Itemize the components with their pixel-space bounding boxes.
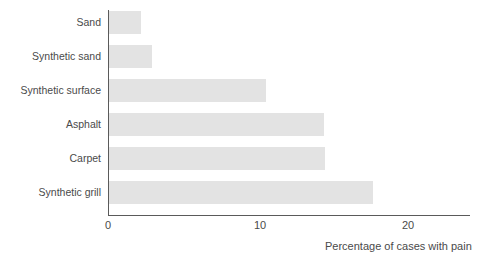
category-label-asphalt: Asphalt <box>1 118 101 130</box>
bar-synthetic-surface <box>108 79 266 102</box>
x-axis-title: Percentage of cases with pain <box>325 240 472 252</box>
bar-row <box>108 79 266 102</box>
bar-row <box>108 45 152 68</box>
category-label-synthetic-surface: Synthetic surface <box>1 84 101 96</box>
category-label-synthetic-sand: Synthetic sand <box>1 50 101 62</box>
bar-synthetic-sand <box>108 45 152 68</box>
plot-area <box>108 10 470 215</box>
x-axis-line <box>108 215 470 216</box>
bar-asphalt <box>108 113 324 136</box>
category-label-carpet: Carpet <box>1 152 101 164</box>
bar-carpet <box>108 147 325 170</box>
bar-row <box>108 181 373 204</box>
bar-row <box>108 11 141 34</box>
x-tick-label-10: 10 <box>254 219 266 231</box>
bar-row <box>108 113 324 136</box>
category-label-synthetic-grill: Synthetic grill <box>1 186 101 198</box>
category-axis-labels: Sand Synthetic sand Synthetic surface As… <box>0 10 101 215</box>
bar-chart-figure: Sand Synthetic sand Synthetic surface As… <box>0 0 477 263</box>
category-label-sand: Sand <box>1 16 101 28</box>
y-axis-line <box>108 10 109 216</box>
bar-sand <box>108 11 141 34</box>
bar-row <box>108 147 325 170</box>
x-tick-label-0: 0 <box>105 219 111 231</box>
x-tick-label-20: 20 <box>402 219 414 231</box>
bar-synthetic-grill <box>108 181 373 204</box>
